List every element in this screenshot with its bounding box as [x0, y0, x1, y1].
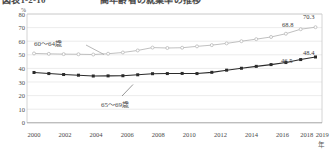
- x-tick-2000: 2000: [28, 131, 41, 138]
- x-tick-2019: 2019: [316, 131, 329, 138]
- x-tick-2008: 2008: [152, 131, 165, 138]
- x-tick-2014: 2014: [245, 131, 258, 138]
- chart-container: 図表1-2-10 高年齢者の就業率の推移 % 年 80 70 60 50 40 …: [0, 0, 331, 152]
- x-tick-2016: 2016: [276, 131, 289, 138]
- x-tick-2002: 2002: [59, 131, 72, 138]
- x-tick-2004: 2004: [90, 131, 103, 138]
- x-tick-2010: 2010: [183, 131, 196, 138]
- x-tick-2012: 2012: [214, 131, 227, 138]
- x-axis-labels: 2000 2002 2004 2006 2008 2010 2012 2014 …: [0, 0, 331, 152]
- x-tick-2018: 2018: [300, 131, 313, 138]
- x-tick-2006: 2006: [121, 131, 134, 138]
